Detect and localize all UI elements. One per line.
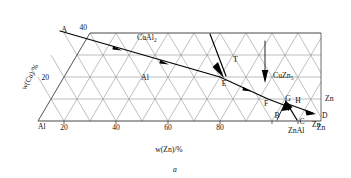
x-tick-label-5: Zn <box>317 123 326 132</box>
x-tick-label-2: 40 <box>112 123 120 132</box>
y-axis-title: w(Cu)/% <box>19 62 40 91</box>
y-tick-label-40: 40 <box>79 23 87 32</box>
y-tick-label-20: 20 <box>41 73 49 82</box>
x-axis-title: w(Zn)/% <box>155 145 183 154</box>
phase-label-t: T <box>233 55 238 64</box>
phase-label-cual2-text: CuAl <box>137 33 155 42</box>
phase-label-cuzn5-subscript: 5 <box>291 75 294 81</box>
phase-label-cuzn5-text: CuZn <box>273 71 291 80</box>
phase-label-al-text: Al <box>141 73 150 82</box>
point-label-F: F <box>264 99 268 108</box>
phase-label-znal-text: ZnAl <box>288 126 305 135</box>
point-label-H: H <box>295 96 301 105</box>
diagram-canvas: A E F G H B C D CuAl2 Al T CuZn5 Z <box>0 0 351 178</box>
phase-label-cuzn5: CuZn5 <box>273 71 294 81</box>
x-tick-label-3: 60 <box>164 123 172 132</box>
phase-label-cual2: CuAl2 <box>137 33 157 43</box>
cuzn5-tie-line <box>262 41 268 83</box>
phase-label-znal: ZnAl <box>288 126 305 135</box>
point-label-A: A <box>62 25 68 34</box>
x-tick-label-4: 80 <box>216 123 224 132</box>
phase-label-t-text: T <box>233 55 238 64</box>
phase-label-al: Al <box>141 73 150 82</box>
axis-ticks <box>64 121 298 124</box>
point-label-C: C <box>299 117 304 126</box>
phase-label-cual2-subscript: 2 <box>154 37 157 43</box>
point-label-D: D <box>322 111 328 120</box>
x-axis-tick-labels: Al 20 40 60 80 Zn <box>38 122 325 132</box>
point-label-G: G <box>285 94 291 103</box>
point-label-B: B <box>274 111 279 120</box>
corner-label-zn-upper: Zn <box>325 94 334 103</box>
x-tick-label-0: Al <box>38 122 46 131</box>
crystallization-path-line <box>60 31 289 107</box>
point-label-E: E <box>222 79 227 88</box>
figure-caption: a <box>173 165 177 174</box>
x-tick-label-1: 20 <box>60 123 68 132</box>
ternary-phase-diagram-figure: A E F G H B C D CuAl2 Al T CuZn5 Z <box>0 0 351 178</box>
